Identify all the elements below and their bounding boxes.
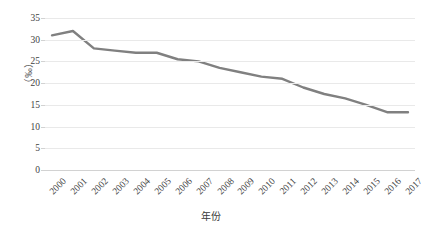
y-axis-tickmark (41, 127, 45, 128)
x-axis-tick-labels: 2000200120022003200420052006200720082009… (45, 170, 415, 210)
y-axis-tickmark (41, 18, 45, 19)
gridline (45, 105, 415, 106)
gridline (45, 40, 415, 41)
y-axis-tick-label: 15 (14, 100, 40, 110)
y-axis-tick-label: 5 (14, 143, 40, 153)
plot-area (45, 18, 415, 170)
y-axis-tickmark (41, 83, 45, 84)
gridline (45, 61, 415, 62)
line-chart: （‰） 05101520253035 200020012002200320042… (0, 0, 422, 233)
data-series-line (45, 18, 415, 170)
y-axis-tick-label: 0 (14, 165, 40, 175)
gridline (45, 127, 415, 128)
gridline (45, 148, 415, 149)
y-axis-tick-label: 30 (14, 35, 40, 45)
y-axis-tickmark (41, 40, 45, 41)
y-axis-tickmark (41, 105, 45, 106)
y-axis-tick-label: 20 (14, 78, 40, 88)
y-axis-tickmark (41, 61, 45, 62)
y-axis-tick-label: 25 (14, 56, 40, 66)
y-axis-tickmark (41, 170, 45, 171)
x-axis-title: 年份 (0, 208, 422, 223)
y-axis-tickmark (41, 148, 45, 149)
y-axis-tick-label: 35 (14, 13, 40, 23)
gridline (45, 18, 415, 19)
y-axis-tick-labels: 05101520253035 (14, 0, 40, 233)
y-axis-tick-label: 10 (14, 122, 40, 132)
gridline (45, 83, 415, 84)
